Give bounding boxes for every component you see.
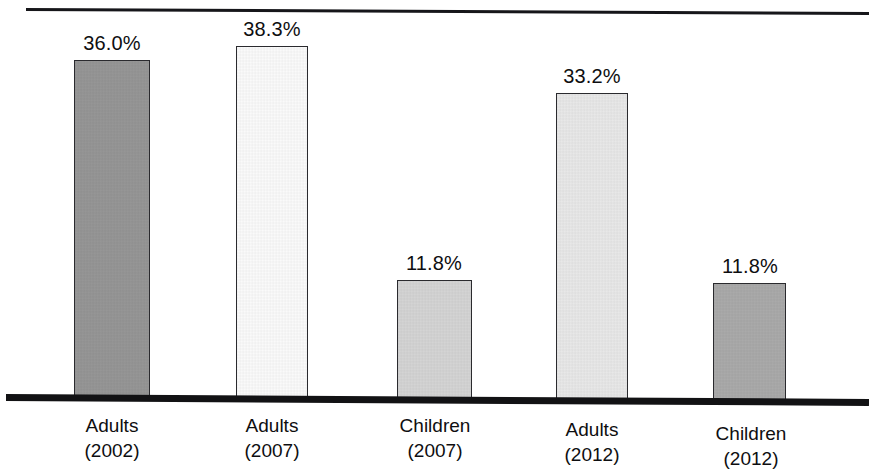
- category-year: (2002): [52, 439, 172, 464]
- category-year: (2007): [374, 439, 496, 464]
- category-label-adults-2007: Adults (2007): [212, 414, 332, 463]
- value-label-children-2012: 11.8%: [710, 255, 790, 278]
- bar-adults-2007: [236, 46, 308, 398]
- value-label-adults-2007: 38.3%: [232, 18, 312, 41]
- category-label-adults-2002: Adults (2002): [52, 414, 172, 463]
- value-label-adults-2002: 36.0%: [74, 32, 150, 55]
- category-label-children-2007: Children (2007): [374, 414, 496, 463]
- category-name: Children: [690, 422, 812, 447]
- category-name: Adults: [52, 414, 172, 439]
- category-year: (2012): [532, 443, 652, 468]
- category-name: Children: [374, 414, 496, 439]
- category-label-children-2012: Children (2012): [690, 422, 812, 469]
- plot-area: 36.0% 38.3% 11.8% 33.2% 11.8%: [0, 0, 869, 399]
- value-label-children-2007: 11.8%: [394, 252, 474, 275]
- category-label-adults-2012: Adults (2012): [532, 418, 652, 467]
- value-label-adults-2012: 33.2%: [552, 65, 632, 88]
- bar-children-2007: [397, 280, 472, 399]
- bar-adults-2002: [74, 60, 150, 397]
- category-year: (2012): [690, 447, 812, 469]
- category-name: Adults: [532, 418, 652, 443]
- category-name: Adults: [212, 414, 332, 439]
- chart-page: 36.0% 38.3% 11.8% 33.2% 11.8% Adults (20…: [0, 0, 869, 469]
- bar-children-2012: [713, 283, 786, 400]
- category-year: (2007): [212, 439, 332, 464]
- bar-adults-2012: [556, 93, 628, 399]
